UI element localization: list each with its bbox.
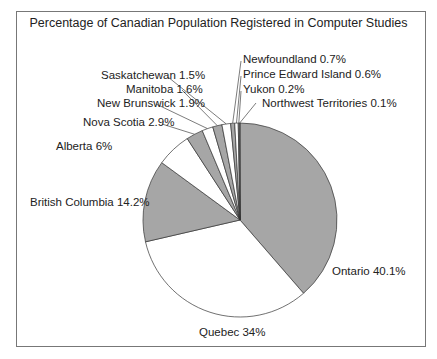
label-yukon: Yukon 0.2% [243, 83, 304, 95]
label-newfoundland: Newfoundland 0.7% [243, 53, 346, 65]
label-saskatchewan: Saskatchewan 1.5% [101, 69, 205, 81]
label-prince-edward-island: Prince Edward Island 0.6% [243, 68, 381, 80]
label-new-brunswick: New Brunswick 1.9% [97, 97, 205, 109]
label-british-columbia: British Columbia 14.2% [30, 196, 150, 208]
pie-chart [0, 0, 437, 359]
label-alberta: Alberta 6% [56, 140, 112, 152]
label-northwest-territories: Northwest Territories 0.1% [262, 97, 397, 109]
leader-line [240, 103, 256, 123]
label-nova-scotia: Nova Scotia 2.9% [83, 116, 174, 128]
label-ontario: Ontario 40.1% [332, 265, 406, 277]
label-quebec: Quebec 34% [199, 326, 266, 338]
label-manitoba: Manitoba 1.6% [126, 83, 203, 95]
